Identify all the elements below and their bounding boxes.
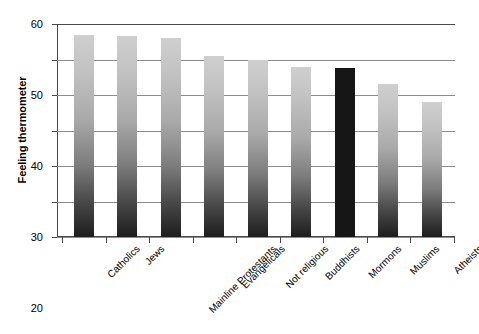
x-tick-mark <box>323 237 324 243</box>
y-tick-label: 60 <box>31 18 43 30</box>
y-tick-mark: 20 <box>52 166 57 167</box>
bar <box>117 36 137 237</box>
y-tick-mark: 50 <box>52 60 57 61</box>
y-tick-mark: 60 <box>52 24 57 25</box>
bar <box>204 56 224 237</box>
bar <box>248 60 268 238</box>
x-tick-mark <box>106 237 107 243</box>
plot-area: 0102030405060 <box>57 24 455 237</box>
x-tick-label: Jews <box>143 243 167 267</box>
x-tick-mark <box>62 237 63 243</box>
gridline <box>57 237 455 238</box>
x-tick-mark <box>149 237 150 243</box>
bar <box>378 84 398 237</box>
x-tick-label: Muslims <box>408 243 442 277</box>
bar <box>335 68 355 237</box>
y-tick-label: 50 <box>31 89 43 101</box>
x-tick-label: Not religious <box>283 243 330 290</box>
bar-chart-figure: Feeling thermometer 0102030405060 Cathol… <box>0 0 479 334</box>
y-tick-label: 20 <box>31 302 43 314</box>
x-tick-mark <box>367 237 368 243</box>
y-tick-label: 30 <box>31 231 43 243</box>
y-axis-title: Feeling thermometer <box>14 10 30 250</box>
x-tick-label: Atheists <box>451 243 479 276</box>
x-tick-mark <box>410 237 411 243</box>
y-tick-mark: 40 <box>52 95 57 96</box>
bar <box>74 35 94 237</box>
x-tick-mark <box>280 237 281 243</box>
y-tick-mark: 10 <box>52 202 57 203</box>
gridline <box>57 24 455 25</box>
y-tick-mark: 30 <box>52 131 57 132</box>
y-tick-mark: 0 <box>52 237 57 238</box>
bar <box>161 38 181 237</box>
x-tick-label: Catholics <box>105 243 142 280</box>
x-tick-mark <box>236 237 237 243</box>
x-tick-label: Mormons <box>366 243 403 280</box>
x-tick-mark <box>454 237 455 243</box>
x-tick-mark <box>193 237 194 243</box>
bar <box>422 102 442 237</box>
y-tick-label: 40 <box>31 160 43 172</box>
bar <box>291 67 311 237</box>
